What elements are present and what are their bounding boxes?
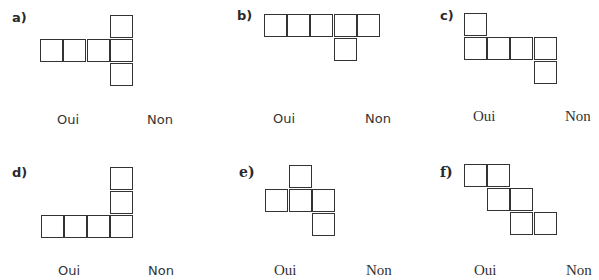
exercise-label-b: b) [237,8,252,23]
net-square [312,189,335,212]
net-square [464,37,487,60]
answer-non-f[interactable]: Non [566,262,592,279]
answer-oui-e[interactable]: Oui [274,262,297,279]
net-square [110,167,133,190]
answer-non-b[interactable]: Non [365,111,391,126]
net-square [310,14,333,37]
answer-non-d[interactable]: Non [148,263,174,278]
net-square [534,61,557,84]
net-square [110,191,133,214]
net-square [289,189,312,212]
net-square [510,37,533,60]
exercise-label-e: e) [239,164,255,180]
answer-oui-d[interactable]: Oui [58,263,80,278]
net-square [64,215,87,238]
exercise-label-f: f) [440,164,453,180]
net-square [63,39,86,62]
net-square [534,37,557,60]
net-square [487,188,510,211]
net-square [334,38,357,61]
net-square [357,14,380,37]
net-square [334,14,357,37]
answer-oui-a[interactable]: Oui [57,112,79,127]
net-square [110,39,133,62]
net-square [464,164,487,187]
net-square [510,188,533,211]
net-square [487,164,510,187]
answer-non-a[interactable]: Non [147,112,173,127]
net-square [40,39,63,62]
net-square [510,212,533,235]
net-square [41,215,64,238]
net-square [265,189,288,212]
net-square [87,39,110,62]
answer-oui-b[interactable]: Oui [273,111,295,126]
exercise-label-c: c) [440,8,454,23]
net-square [110,215,133,238]
net-square [464,13,487,36]
net-square [110,15,133,38]
net-square [289,165,312,188]
exercise-label-d: d) [12,165,27,180]
exercise-label-a: a) [12,10,27,25]
net-square [87,215,110,238]
answer-non-e[interactable]: Non [366,262,392,279]
net-square [110,63,133,86]
answer-oui-c[interactable]: Oui [473,108,496,125]
net-square [312,213,335,236]
answer-oui-f[interactable]: Oui [474,262,497,279]
answer-non-c[interactable]: Non [565,108,591,125]
net-square [534,212,557,235]
net-square [487,37,510,60]
net-square [287,14,310,37]
net-square [264,14,287,37]
